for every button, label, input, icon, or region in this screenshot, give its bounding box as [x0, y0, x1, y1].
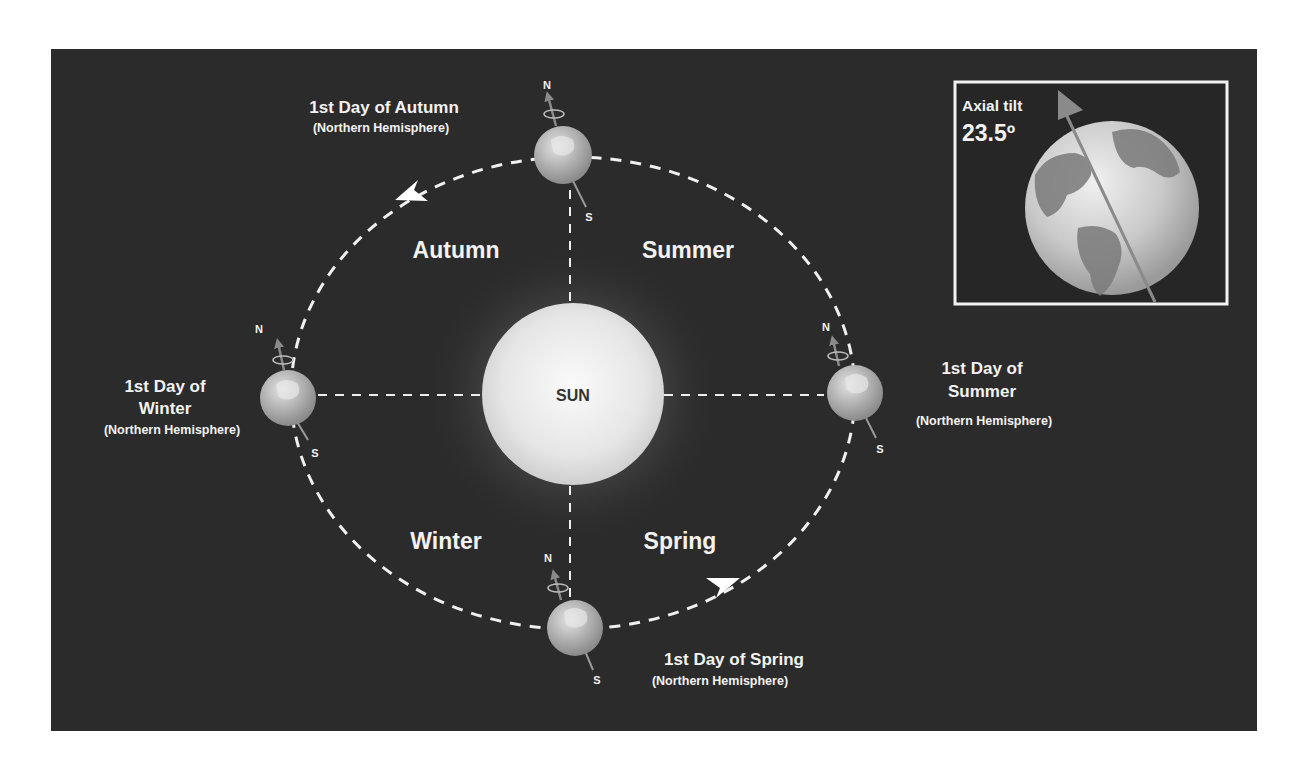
diagram-canvas: SUN Autumn Summer Winter Spring N S 1st …: [0, 0, 1302, 775]
position-title-autumn: 1st Day of Autumn: [309, 98, 459, 117]
position-subtitle-summer: (Northern Hemisphere): [916, 414, 1052, 428]
position-title-summer-line1: 1st Day of: [941, 359, 1023, 378]
north-label: N: [544, 552, 552, 564]
axial-tilt-inset: Axial tilt 23.5º: [955, 82, 1227, 304]
continent-shape: [564, 608, 587, 628]
inset-label: Axial tilt: [962, 97, 1022, 114]
north-label: N: [255, 323, 263, 335]
season-label-winter: Winter: [410, 528, 481, 554]
continent-shape: [845, 374, 868, 394]
season-label-autumn: Autumn: [413, 237, 500, 263]
season-label-summer: Summer: [642, 237, 734, 263]
position-title-spring: 1st Day of Spring: [664, 650, 804, 669]
south-label: S: [311, 447, 318, 459]
position-title-winter-line2: Winter: [139, 399, 192, 418]
continent-shape: [551, 136, 574, 156]
inset-tilt-value: 23.5º: [962, 120, 1015, 146]
position-subtitle-spring: (Northern Hemisphere): [652, 674, 788, 688]
north-label: N: [543, 79, 551, 91]
seasons-diagram: SUN Autumn Summer Winter Spring N S 1st …: [0, 0, 1302, 775]
south-label: S: [876, 443, 883, 455]
position-subtitle-winter: (Northern Hemisphere): [104, 423, 240, 437]
south-label: S: [593, 674, 600, 686]
position-subtitle-autumn: (Northern Hemisphere): [313, 121, 449, 135]
continent-shape: [276, 380, 299, 400]
position-title-summer-line2: Summer: [948, 382, 1016, 401]
position-title-winter-line1: 1st Day of: [124, 377, 206, 396]
sun-label: SUN: [556, 387, 590, 404]
season-label-spring: Spring: [644, 528, 717, 554]
south-label: S: [585, 211, 592, 223]
north-label: N: [822, 321, 830, 333]
